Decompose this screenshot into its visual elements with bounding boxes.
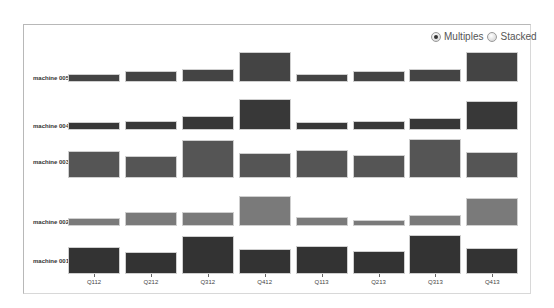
bar[interactable] bbox=[68, 247, 120, 274]
bar[interactable] bbox=[466, 52, 518, 82]
bar[interactable] bbox=[239, 153, 291, 178]
bar[interactable] bbox=[409, 139, 461, 178]
x-tick bbox=[379, 274, 380, 277]
bar[interactable] bbox=[409, 118, 461, 130]
row-label: machine 001 bbox=[33, 258, 69, 264]
bar[interactable] bbox=[125, 212, 177, 226]
x-tick bbox=[94, 274, 95, 277]
row-label: machine 003 bbox=[33, 159, 69, 165]
bar[interactable] bbox=[466, 152, 518, 178]
bar[interactable] bbox=[182, 236, 234, 274]
stacked-radio[interactable] bbox=[487, 32, 497, 42]
x-tick bbox=[151, 274, 152, 277]
row-label: machine 004 bbox=[33, 123, 69, 129]
bar[interactable] bbox=[239, 196, 291, 226]
bar[interactable] bbox=[296, 122, 348, 130]
x-tick-label: Q412 bbox=[245, 279, 285, 285]
bar[interactable] bbox=[466, 101, 518, 130]
row-label: machine 005 bbox=[33, 75, 69, 81]
x-tick bbox=[265, 274, 266, 277]
bar[interactable] bbox=[182, 69, 234, 82]
bar[interactable] bbox=[296, 246, 348, 274]
bar[interactable] bbox=[239, 52, 291, 82]
bar[interactable] bbox=[466, 248, 518, 274]
x-tick-label: Q113 bbox=[302, 279, 342, 285]
x-tick-label: Q213 bbox=[359, 279, 399, 285]
row-label: machine 002 bbox=[33, 219, 69, 225]
bar[interactable] bbox=[182, 212, 234, 226]
bar[interactable] bbox=[296, 217, 348, 226]
bar[interactable] bbox=[296, 74, 348, 82]
bar[interactable] bbox=[125, 121, 177, 130]
bar[interactable] bbox=[125, 156, 177, 178]
bar[interactable] bbox=[68, 151, 120, 178]
x-tick-label: Q212 bbox=[131, 279, 171, 285]
bar[interactable] bbox=[68, 218, 120, 226]
x-tick-label: Q312 bbox=[188, 279, 228, 285]
x-tick-label: Q413 bbox=[472, 279, 512, 285]
bar[interactable] bbox=[353, 121, 405, 130]
x-tick-label: Q313 bbox=[415, 279, 455, 285]
bar[interactable] bbox=[353, 71, 405, 82]
x-tick-label: Q112 bbox=[74, 279, 114, 285]
bar[interactable] bbox=[239, 99, 291, 130]
bar[interactable] bbox=[296, 150, 348, 178]
bar[interactable] bbox=[125, 252, 177, 274]
multiples-radio[interactable] bbox=[431, 32, 441, 42]
bar[interactable] bbox=[239, 249, 291, 274]
layout-toggle: Multiples Stacked bbox=[431, 31, 541, 42]
x-tick bbox=[208, 274, 209, 277]
x-tick bbox=[435, 274, 436, 277]
bar[interactable] bbox=[466, 198, 518, 226]
x-tick bbox=[322, 274, 323, 277]
bar[interactable] bbox=[68, 122, 120, 130]
bar[interactable] bbox=[409, 215, 461, 226]
bar[interactable] bbox=[125, 71, 177, 82]
bar[interactable] bbox=[409, 69, 461, 82]
bar[interactable] bbox=[409, 235, 461, 274]
x-tick bbox=[492, 274, 493, 277]
bar[interactable] bbox=[353, 220, 405, 226]
bar[interactable] bbox=[182, 116, 234, 130]
bar[interactable] bbox=[68, 74, 120, 82]
multiples-label[interactable]: Multiples bbox=[444, 31, 483, 42]
bar[interactable] bbox=[353, 251, 405, 274]
bar[interactable] bbox=[182, 140, 234, 178]
bar[interactable] bbox=[353, 155, 405, 178]
stacked-label[interactable]: Stacked bbox=[500, 31, 536, 42]
